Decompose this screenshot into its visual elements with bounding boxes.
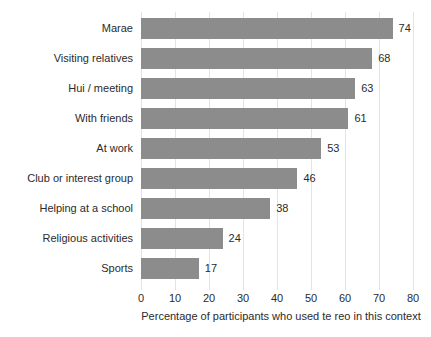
x-tick-label: 80 [407,292,419,304]
bar-value-label: 38 [276,198,288,219]
bar-row[interactable]: 68 [141,44,431,74]
bar-row[interactable]: 74 [141,14,431,44]
plot-area: 746863615346382417 [141,12,413,290]
bar-row[interactable]: 24 [141,224,431,254]
x-tick-label: 30 [237,292,249,304]
bar[interactable] [141,108,348,129]
x-tick-label: 70 [373,292,385,304]
x-tick-label: 0 [138,292,144,304]
x-tick-label: 50 [305,292,317,304]
category-label: With friends [75,108,133,129]
bar[interactable] [141,138,321,159]
bar-value-label: 17 [205,258,217,279]
category-label: Club or interest group [27,168,133,189]
category-label: Sports [101,258,133,279]
bar-row[interactable]: 63 [141,74,431,104]
bar[interactable] [141,78,355,99]
bar-value-label: 46 [303,168,315,189]
x-axis: 01020304050607080 [141,292,413,308]
category-label: Religious activities [43,228,133,249]
x-tick-label: 60 [339,292,351,304]
category-label: Visiting relatives [54,48,133,69]
category-axis: MaraeVisiting relativesHui / meetingWith… [0,12,133,290]
category-label: Marae [102,18,133,39]
bar-value-label: 53 [327,138,339,159]
category-label: At work [96,138,133,159]
bar-value-label: 61 [354,108,366,129]
bar[interactable] [141,168,297,189]
bar[interactable] [141,258,199,279]
bar-value-label: 63 [361,78,373,99]
x-tick-label: 20 [203,292,215,304]
bar[interactable] [141,228,223,249]
bar-row[interactable]: 17 [141,254,431,284]
bar[interactable] [141,198,270,219]
bar-value-label: 74 [399,18,411,39]
bar-value-label: 24 [229,228,241,249]
bar-row[interactable]: 46 [141,164,431,194]
x-axis-title: Percentage of participants who used te r… [141,310,421,322]
bar[interactable] [141,48,372,69]
bar-series: 746863615346382417 [141,12,413,290]
category-label: Hui / meeting [68,78,133,99]
bar[interactable] [141,18,393,39]
bar-row[interactable]: 53 [141,134,431,164]
bar-row[interactable]: 61 [141,104,431,134]
bar-value-label: 68 [378,48,390,69]
x-tick-label: 40 [271,292,283,304]
x-tick-label: 10 [169,292,181,304]
bar-row[interactable]: 38 [141,194,431,224]
bar-chart: MaraeVisiting relativesHui / meetingWith… [0,0,431,337]
category-label: Helping at a school [39,198,133,219]
